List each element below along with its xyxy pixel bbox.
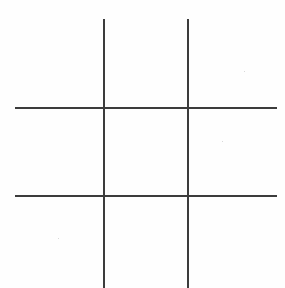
cell-top-left[interactable] [0, 0, 103, 107]
tic-tac-toe-canvas [0, 0, 285, 288]
cell-top-right[interactable] [189, 0, 285, 107]
cell-top-center[interactable] [105, 0, 187, 107]
cell-bottom-center[interactable] [105, 197, 187, 288]
cell-bottom-right[interactable] [189, 197, 285, 288]
cell-middle-center[interactable] [105, 109, 187, 195]
cell-middle-right[interactable] [189, 109, 285, 195]
tic-tac-toe-board [0, 0, 285, 288]
cell-middle-left[interactable] [0, 109, 103, 195]
cell-bottom-left[interactable] [0, 197, 103, 288]
